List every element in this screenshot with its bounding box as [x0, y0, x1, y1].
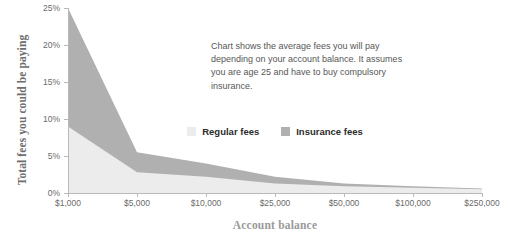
- x-tick-label: $100,000: [373, 198, 453, 208]
- x-tick-label: $250,000: [442, 198, 509, 208]
- x-tick-label: $25,000: [235, 198, 315, 208]
- series-areas: [68, 8, 482, 193]
- x-tick-label: $5,000: [97, 198, 177, 208]
- fees-area-chart: Total fees you could be paying 0%5%10%15…: [0, 0, 509, 237]
- x-tick-label: $10,000: [166, 198, 246, 208]
- legend-swatch-icon: [281, 127, 290, 136]
- chart-annotation-note: Chart shows the average fees you will pa…: [211, 40, 416, 93]
- legend-item: Regular fees: [187, 126, 259, 137]
- x-tick-label: $1,000: [28, 198, 108, 208]
- x-tick-label: $50,000: [304, 198, 384, 208]
- chart-legend: Regular feesInsurance fees: [68, 126, 482, 137]
- legend-item: Insurance fees: [281, 126, 363, 137]
- x-axis-title: Account balance: [68, 219, 482, 231]
- legend-label: Regular fees: [202, 126, 259, 137]
- series-area-insurance-fees: [68, 8, 482, 193]
- legend-label: Insurance fees: [296, 126, 363, 137]
- legend-swatch-icon: [187, 127, 196, 136]
